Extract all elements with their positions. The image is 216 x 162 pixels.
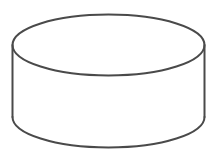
cylinder-top-ellipse bbox=[13, 15, 205, 76]
drawing-canvas bbox=[0, 0, 216, 162]
cylinder-bottom-arc bbox=[13, 117, 205, 147]
cylinder-outline bbox=[13, 15, 205, 148]
cylinder-drawing bbox=[0, 0, 216, 162]
